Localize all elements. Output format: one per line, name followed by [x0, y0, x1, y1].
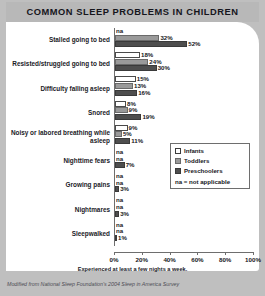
bar-row: 30% [115, 65, 259, 71]
x-tick-label: 40% [163, 256, 175, 263]
chart-figure: COMMON SLEEP PROBLEMS IN CHILDREN Stalle… [0, 0, 265, 296]
bar-stack: na32%52% [114, 28, 259, 52]
bar-value-label: 7% [126, 162, 135, 168]
bar-row: 32% [115, 35, 259, 41]
bar [115, 90, 137, 96]
x-tick [114, 252, 115, 255]
x-tick-label: 60% [191, 256, 203, 263]
x-tick-label: 0% [110, 256, 119, 263]
bar-row: 52% [115, 41, 259, 47]
bar-value-label: 3% [120, 211, 129, 217]
bar-row: na [115, 228, 259, 234]
legend-item-toddlers: Toddlers [175, 157, 245, 164]
x-tick-label: 20% [136, 256, 148, 263]
bar [115, 52, 140, 58]
x-tick [142, 252, 143, 255]
category-label: Growing pains [6, 181, 114, 189]
legend-note-row: na = not applicable [175, 178, 245, 185]
bar-stack: nana1% [114, 222, 259, 246]
bar-na-label: na [116, 28, 123, 34]
bar-row: 13% [115, 83, 259, 89]
bar-stack: 15%13%16% [114, 76, 259, 100]
bar-stack: 8%9%19% [114, 101, 259, 125]
bar [115, 131, 122, 137]
page-title: COMMON SLEEP PROBLEMS IN CHILDREN [26, 7, 238, 17]
chart-title-band: COMMON SLEEP PROBLEMS IN CHILDREN [6, 2, 259, 22]
legend-swatch-icon [175, 148, 181, 154]
legend-label: Infants [184, 147, 204, 154]
category-label: Nightmares [6, 206, 114, 214]
chart-panel: Stalled going to bedna32%52%Resisted/str… [6, 22, 259, 271]
legend-item-infants: Infants [175, 147, 245, 154]
bar-row: 9% [115, 125, 259, 131]
bar-na-label: na [116, 156, 123, 162]
bar-na-label: na [116, 204, 123, 210]
legend-label: Preschoolers [184, 167, 223, 174]
bar-value-label: 3% [120, 186, 129, 192]
x-tick [170, 252, 171, 255]
bar [115, 41, 187, 47]
plot-area: Stalled going to bedna32%52%Resisted/str… [6, 28, 259, 246]
bar-group-list: Stalled going to bedna32%52%Resisted/str… [6, 28, 259, 246]
bar [115, 65, 157, 71]
bar-group: Snored8%9%19% [6, 101, 259, 125]
bar [115, 83, 133, 89]
bar [115, 35, 159, 41]
bar-row: na [115, 28, 259, 34]
bar [115, 76, 136, 82]
bar-row: 16% [115, 90, 259, 96]
category-label: Sleepwalked [6, 230, 114, 238]
bar-group: Difficulty falling asleep15%13%16% [6, 76, 259, 100]
bar-value-label: 9% [129, 107, 138, 113]
legend-swatch-icon [175, 158, 181, 164]
bar-group: Nightmaresnana3% [6, 197, 259, 221]
bar [115, 235, 117, 241]
bar-row: 18% [115, 52, 259, 58]
bar [115, 138, 130, 144]
category-label: Resisted/struggled going to bed [6, 60, 114, 68]
x-axis-tick-labels: 0%20%40%60%80%100% [114, 256, 253, 266]
bar-value-label: 16% [138, 90, 150, 96]
bar-row: na [115, 204, 259, 210]
legend-note: na = not applicable [175, 178, 230, 185]
bar [115, 211, 119, 217]
bar [115, 186, 119, 192]
x-tick [253, 252, 254, 255]
category-label: Snored [6, 109, 114, 117]
bar-group: Resisted/struggled going to bed18%24%30% [6, 52, 259, 76]
x-tick-label: 80% [219, 256, 231, 263]
bar-value-label: 19% [142, 114, 154, 120]
x-tick-label: 100% [245, 256, 261, 263]
bar-row: na [115, 197, 259, 203]
bar [115, 59, 148, 65]
bar-row: 24% [115, 59, 259, 65]
axis-footnote: Experienced at least a few nights a week… [6, 266, 259, 272]
x-tick [197, 252, 198, 255]
bar-group: Sleepwalkednana1% [6, 222, 259, 246]
bar-value-label: 52% [188, 41, 200, 47]
bar-row: na [115, 222, 259, 228]
legend-swatch-icon [175, 168, 181, 174]
chart-legend: Infants Toddlers Preschoolers na = not a… [170, 143, 250, 189]
bar-row: 9% [115, 107, 259, 113]
bar-value-label: 32% [160, 35, 172, 41]
bar [115, 101, 126, 107]
category-label: Stalled going to bed [6, 36, 114, 44]
bar-value-label: 30% [158, 65, 170, 71]
bar-row: 19% [115, 114, 259, 120]
legend-label: Toddlers [184, 157, 209, 164]
category-label: Difficulty falling asleep [6, 85, 114, 93]
bar-stack: nana3% [114, 197, 259, 221]
bar [115, 162, 125, 168]
bar-group: Stalled going to bedna32%52% [6, 28, 259, 52]
legend-item-preschoolers: Preschoolers [175, 167, 245, 174]
bar-value-label: 11% [131, 138, 143, 144]
bar [115, 114, 141, 120]
bar [115, 107, 128, 113]
source-credit: Modified from National Sleep Foundation'… [7, 281, 179, 287]
bar-stack: 18%24%30% [114, 52, 259, 76]
category-label: Noisy or labored breathing while asleep [6, 129, 114, 144]
x-tick [225, 252, 226, 255]
bar-value-label: 1% [118, 235, 127, 241]
bar-row: 1% [115, 235, 259, 241]
